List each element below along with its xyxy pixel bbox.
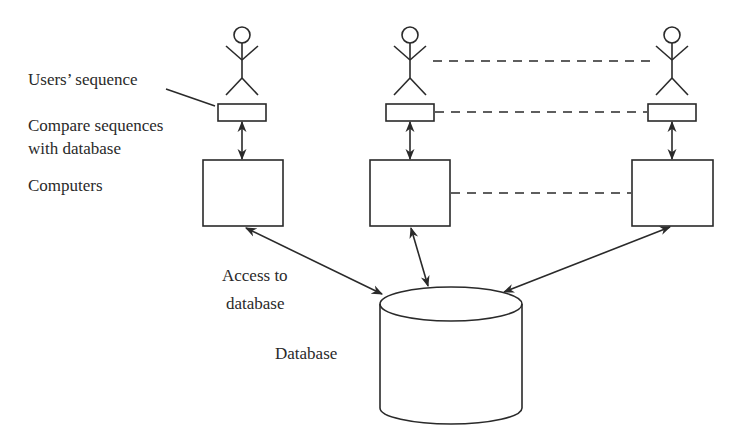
label-access-line1: Access to: [222, 266, 288, 286]
user-actor-icon-3: [656, 27, 688, 95]
arrow-computer3-database: [504, 227, 670, 292]
label-leader-line: [166, 89, 215, 106]
sequence-box-1: [218, 104, 266, 121]
label-compare-line2: with database: [28, 139, 121, 159]
label-computers: Computers: [28, 176, 103, 196]
label-compare-line1: Compare sequences: [28, 116, 163, 136]
computer-box-3: [632, 160, 713, 226]
sequence-box-3: [648, 104, 696, 121]
computer-box-1: [203, 160, 283, 226]
arrow-computer2-database: [411, 228, 428, 286]
user-actor-icon-2: [394, 27, 426, 95]
user-actor-icon-1: [226, 27, 258, 95]
diagram-canvas: [0, 0, 738, 445]
database-cylinder-icon: [380, 287, 522, 424]
label-users-sequence: Users’ sequence: [28, 70, 138, 90]
sequence-box-2: [386, 104, 434, 121]
label-database: Database: [275, 344, 337, 364]
computer-box-2: [370, 160, 450, 226]
label-access-line2: database: [226, 294, 285, 314]
